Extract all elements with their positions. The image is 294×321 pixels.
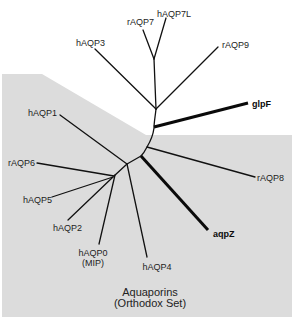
branch-internal-aqp7 [154, 59, 156, 109]
leaf-label-hAQP5: hAQP5 [23, 195, 52, 205]
leaf-label-hAQP2: hAQP2 [53, 223, 82, 233]
leaf-label-rAQP6: rAQP6 [8, 158, 35, 168]
phylogenetic-tree: hAQP7L rAQP7 hAQP3 rAQP9 glpF hAQP1 rAQP… [0, 0, 294, 321]
leaf-label-rAQP7: rAQP7 [127, 17, 154, 27]
branch-glpF [154, 103, 248, 127]
leaf-label-hAQP1: hAQP1 [28, 108, 57, 118]
leaf-label-hAQP3: hAQP3 [76, 38, 105, 48]
leaf-label-hAQP0: hAQP0 [78, 248, 107, 258]
branch-rAQP7 [143, 30, 154, 59]
leaf-label-hAQP0-alias: (MIP) [82, 258, 104, 268]
branch-hAQP3 [95, 49, 156, 109]
leaf-label-hAQP7L: hAQP7L [157, 9, 191, 19]
leaf-label-glpF: glpF [252, 99, 271, 109]
leaf-label-hAQP4: hAQP4 [142, 262, 171, 272]
leaf-label-rAQP9: rAQP9 [222, 40, 249, 50]
branch-hAQP7L [154, 18, 166, 59]
caption-subtitle: (Orthodox Set) [114, 297, 186, 309]
leaf-label-aqpZ: aqpZ [213, 229, 235, 239]
leaf-label-rAQP8: rAQP8 [257, 173, 284, 183]
branch-rAQP9 [156, 47, 218, 109]
